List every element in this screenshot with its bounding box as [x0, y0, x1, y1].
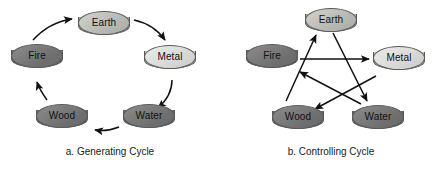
arrow-water-to-fire	[300, 72, 361, 104]
controlling-cycle-panel: Earth Fire Metal Wood Water	[221, 0, 441, 170]
five-element-cycles-figure: Earth Metal Water Wood Fire	[0, 0, 441, 170]
node-label: Fire	[28, 51, 46, 61]
arrow-water-to-wood	[95, 127, 119, 131]
arrow-wood-to-fire	[37, 82, 47, 100]
arrow-earth-to-metal	[134, 20, 165, 40]
node-wood[interactable]: Wood	[272, 105, 324, 135]
node-label: Earth	[319, 15, 343, 25]
node-label: Earth	[92, 18, 116, 28]
disc-top: Water	[352, 105, 404, 129]
node-label: Water	[365, 112, 392, 122]
node-earth[interactable]: Earth	[305, 8, 357, 38]
node-fire[interactable]: Fire	[11, 44, 63, 74]
disc-top: Earth	[305, 8, 357, 32]
disc-top: Metal	[144, 45, 196, 69]
disc-top: Earth	[78, 11, 130, 35]
node-label: Wood	[285, 112, 311, 122]
node-fire[interactable]: Fire	[246, 44, 298, 74]
node-label: Metal	[158, 52, 183, 62]
disc-top: Metal	[373, 46, 425, 70]
disc-top: Wood	[272, 105, 324, 129]
panel-caption: b. Controlling Cycle	[221, 146, 441, 157]
disc-top: Wood	[36, 104, 88, 128]
node-water[interactable]: Water	[123, 104, 175, 134]
disc-top: Water	[123, 104, 175, 128]
node-label: Wood	[49, 111, 75, 121]
node-label: Fire	[263, 51, 281, 61]
node-metal[interactable]: Metal	[144, 45, 196, 75]
node-water[interactable]: Water	[352, 105, 404, 135]
node-label: Metal	[387, 53, 412, 63]
node-earth[interactable]: Earth	[78, 11, 130, 41]
node-wood[interactable]: Wood	[36, 104, 88, 134]
generating-cycle-panel: Earth Metal Water Wood Fire	[0, 0, 220, 170]
node-metal[interactable]: Metal	[373, 46, 425, 76]
disc-top: Fire	[246, 44, 298, 68]
arrow-fire-to-earth	[33, 19, 72, 40]
disc-top: Fire	[11, 44, 63, 68]
panel-caption: a. Generating Cycle	[0, 146, 220, 157]
node-label: Water	[136, 111, 163, 121]
